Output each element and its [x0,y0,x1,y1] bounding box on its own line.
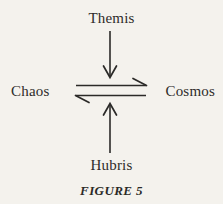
cosmos-to-chaos-arrow-icon [76,95,147,102]
hubris-up-arrow-icon [104,104,117,154]
chaos-to-cosmos-arrow-icon [76,79,147,86]
themis-down-arrow-icon [104,31,117,78]
figure-caption: FIGURE 5 [0,183,223,199]
diagram-arrows [0,0,223,204]
figure-container: Themis Chaos Cosmos Hubris FIGURE 5 [0,0,223,204]
